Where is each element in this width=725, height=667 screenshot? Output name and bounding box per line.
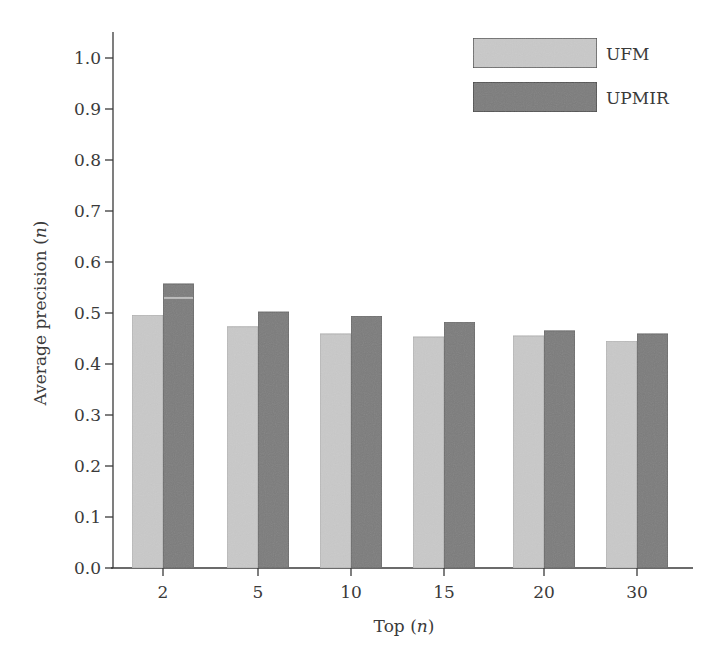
y-tick-label: 0.2 <box>74 456 101 476</box>
y-tick-label: 0.0 <box>74 558 101 578</box>
bar-upmir-10 <box>351 316 382 568</box>
bar-upmir-15 <box>444 322 475 568</box>
y-tick-label: 0.9 <box>74 99 101 119</box>
y-axis: 0.00.10.20.30.40.50.60.70.80.91.0 <box>74 32 113 578</box>
legend-label: UPMIR <box>606 88 670 108</box>
bar-ufm-15 <box>413 337 444 568</box>
bar-upmir-30 <box>637 334 668 568</box>
x-tick-label: 15 <box>433 582 455 602</box>
y-axis-label: Average precision (n) <box>30 221 50 407</box>
y-tick-label: 0.6 <box>74 252 101 272</box>
legend-item-upmir: UPMIR <box>473 82 670 112</box>
y-tick-label: 0.5 <box>74 303 101 323</box>
y-tick-label: 0.3 <box>74 405 101 425</box>
y-tick-label: 0.7 <box>74 201 101 221</box>
y-tick-label: 0.1 <box>74 507 101 527</box>
legend: UFMUPMIR <box>473 38 670 112</box>
bar-upmir-5 <box>258 312 289 568</box>
bar-upmir-2 <box>163 284 194 568</box>
bar-upmir-20 <box>544 331 575 568</box>
x-tick-label: 10 <box>340 582 362 602</box>
legend-swatch <box>473 38 597 68</box>
y-tick-label: 1.0 <box>74 48 101 68</box>
x-axis: 2510152030 <box>111 568 693 602</box>
bar-ufm-20 <box>513 336 544 568</box>
y-tick-label: 0.8 <box>74 150 101 170</box>
bar-chart: 0.00.10.20.30.40.50.60.70.80.91.0 251015… <box>0 0 725 667</box>
y-tick-label: 0.4 <box>74 354 101 374</box>
bar-ufm-10 <box>320 334 351 568</box>
x-tick-label: 5 <box>253 582 264 602</box>
bar-ufm-30 <box>606 341 637 568</box>
x-tick-label: 2 <box>158 582 169 602</box>
legend-swatch <box>473 82 597 112</box>
bars <box>132 284 668 568</box>
x-tick-label: 30 <box>626 582 648 602</box>
legend-label: UFM <box>606 44 650 64</box>
legend-item-ufm: UFM <box>473 38 650 68</box>
bar-ufm-2 <box>132 315 163 568</box>
x-tick-label: 20 <box>533 582 555 602</box>
bar-ufm-5 <box>227 327 258 568</box>
x-axis-label: Top (n) <box>374 616 435 636</box>
